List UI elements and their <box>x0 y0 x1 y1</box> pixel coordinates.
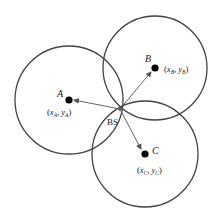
base-station-point <box>118 107 122 111</box>
anchor-dot-b <box>151 64 158 71</box>
arrow-bs-to-c <box>120 109 141 149</box>
anchor-dot-c <box>141 150 148 157</box>
coord-label-a: (xA, yA) <box>47 107 71 118</box>
anchor-dot-a <box>65 96 72 103</box>
arrow-bs-to-a <box>74 100 120 109</box>
coord-label-b: (xB, yB) <box>164 64 188 75</box>
trilateration-diagram: A B C (xA, yA) (xB, yB) (xC, yC) BS <box>0 0 224 221</box>
node-label-b: B <box>145 53 151 64</box>
node-label-c: C <box>152 145 159 156</box>
node-label-a: A <box>56 88 64 99</box>
base-station-label: BS <box>107 117 118 127</box>
coord-label-c: (xC, yC) <box>137 165 162 176</box>
arrow-bs-to-b <box>120 72 151 109</box>
